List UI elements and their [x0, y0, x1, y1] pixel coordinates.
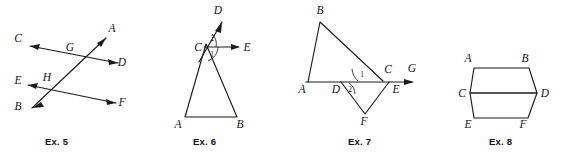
caption-ex5: Ex. 5 — [45, 136, 68, 147]
figure-ex7: B A D C G E F 1 2 — [290, 0, 440, 130]
point-label-b: B — [316, 4, 323, 16]
point-label-c: C — [458, 87, 466, 99]
arrowhead-d — [215, 22, 222, 33]
line-ef — [28, 85, 116, 103]
angle-label-2: 2 — [210, 34, 214, 43]
point-label-c: C — [384, 63, 392, 75]
point-label-f: F — [359, 115, 368, 127]
caption-ex8: Ex. 8 — [489, 136, 512, 147]
point-label-f: F — [518, 118, 527, 130]
triangle-abc — [308, 22, 383, 82]
point-label-d: D — [213, 4, 223, 16]
point-label-d: D — [540, 87, 550, 99]
figure-ex5: C A G D E H B F — [0, 0, 150, 130]
angle-arc-1 — [352, 69, 358, 81]
point-label-a: A — [107, 22, 116, 34]
point-label-b: B — [14, 100, 21, 112]
point-label-f: F — [117, 96, 126, 108]
point-label-a: A — [173, 118, 182, 130]
point-label-c: C — [194, 41, 202, 53]
point-label-e: E — [391, 83, 399, 95]
point-label-a: A — [463, 52, 472, 64]
angle-label-1: 1 — [360, 70, 364, 79]
caption-ex7: Ex. 7 — [348, 136, 371, 147]
point-label-g: G — [66, 41, 75, 53]
point-label-g: G — [408, 62, 417, 74]
figure-ex8: A B C D E F — [440, 0, 563, 130]
arrowhead-d — [108, 59, 118, 65]
parallelogram-cdfe — [470, 93, 537, 118]
arrowhead-f — [106, 99, 116, 105]
arrowhead-e — [28, 83, 38, 89]
point-label-e: E — [242, 41, 250, 53]
parallelogram-abdc — [470, 68, 537, 93]
caption-ex6: Ex. 6 — [193, 136, 216, 147]
angle-label-2: 2 — [348, 85, 352, 94]
point-label-b: B — [236, 118, 243, 130]
angle-label-1: 1 — [210, 50, 214, 59]
arrowhead-e — [231, 44, 240, 50]
point-label-e: E — [463, 118, 471, 130]
arrowhead-g — [404, 79, 414, 85]
point-label-d: D — [331, 83, 341, 95]
geometry-exercise-figures: C A G D E H B F D C E A B 2 1 — [0, 0, 563, 163]
point-label-b: B — [521, 52, 528, 64]
arrowhead-c — [30, 44, 40, 50]
point-label-a: A — [297, 83, 306, 95]
point-label-h: H — [42, 71, 52, 83]
figure-ex6: D C E A B 2 1 — [150, 0, 290, 130]
point-label-d: D — [117, 56, 127, 68]
point-label-e: E — [13, 74, 21, 86]
point-label-c: C — [14, 32, 22, 44]
